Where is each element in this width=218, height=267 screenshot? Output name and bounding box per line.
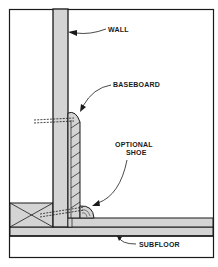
subfloor: [10, 227, 213, 236]
diagram-canvas: WALL BASEBOARD OPTIONAL SHOE SUBFLOOR: [0, 0, 218, 267]
wall: [53, 9, 68, 227]
label-baseboard: BASEBOARD: [113, 81, 160, 88]
label-subfloor: SUBFLOOR: [139, 241, 180, 248]
floor-gap: [68, 218, 72, 227]
finish-floor: [68, 218, 213, 227]
baseboard: [68, 112, 80, 218]
label-wall: WALL: [108, 26, 129, 33]
sole-plate: [10, 203, 53, 227]
label-shoe-line2: SHOE: [126, 149, 147, 156]
label-shoe-line1: OPTIONAL: [115, 141, 153, 148]
